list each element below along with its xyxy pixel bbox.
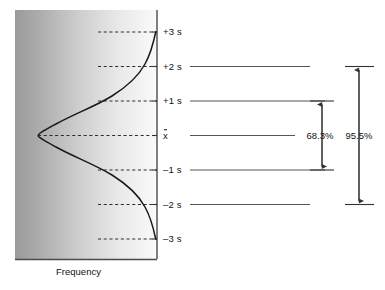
mean-symbol: x xyxy=(163,131,168,141)
sigma-label-plus3: +3 s xyxy=(163,27,182,37)
sigma-label-minus3: –3 s xyxy=(163,234,182,244)
distribution-chart-svg xyxy=(0,0,385,290)
frequency-axis-label: Frequency xyxy=(0,267,157,277)
bracket-68-label: 68.3% xyxy=(307,131,334,141)
sigma-label-minus2: –2 s xyxy=(163,200,182,210)
level-rules xyxy=(190,67,325,205)
sigma-label-minus1: –1 s xyxy=(163,165,182,175)
frequency-gradient-panel xyxy=(15,10,157,259)
sigma-label-mean: x xyxy=(163,131,168,141)
bracket-95-label: 95.5% xyxy=(346,131,373,141)
normal-distribution-figure: +3 s +2 s +1 s x –1 s –2 s –3 s 68.3% 95… xyxy=(0,0,385,290)
sigma-label-plus1: +1 s xyxy=(163,96,182,106)
sigma-label-plus2: +2 s xyxy=(163,62,182,72)
